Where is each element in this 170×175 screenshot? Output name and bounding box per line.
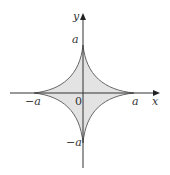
label-bottom-neg-a: −a <box>66 136 82 149</box>
y-axis-label: y <box>72 10 80 23</box>
astroid-region <box>34 45 134 143</box>
astroid-diagram: y x a −a −a a 0 <box>0 0 170 175</box>
y-axis-arrow-icon <box>80 13 86 20</box>
label-right-a: a <box>132 95 139 108</box>
x-axis-label: x <box>152 95 159 108</box>
label-left-neg-a: −a <box>25 95 41 108</box>
origin-label: 0 <box>75 95 82 108</box>
label-top-a: a <box>72 33 79 46</box>
